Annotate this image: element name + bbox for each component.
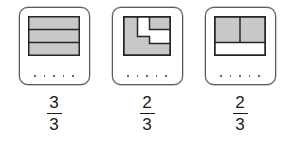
fraction-numerator: 3 (47, 94, 60, 112)
fraction-card-1: 3 3 (13, 0, 95, 142)
dot (34, 75, 36, 77)
fraction-label-1: 3 3 (47, 94, 62, 133)
figure-container-3 (206, 16, 275, 56)
fraction-numerator: 2 (233, 94, 246, 112)
card-row: 3 3 (0, 0, 281, 142)
card-frame-1[interactable] (19, 7, 90, 85)
dot (249, 75, 251, 77)
fraction-numerator: 2 (140, 94, 153, 112)
figure-zigzag-two-thirds-shaded (123, 16, 171, 56)
dot (258, 75, 260, 77)
dot (127, 75, 129, 77)
dots-row-2 (113, 75, 182, 77)
fraction-denominator: 3 (140, 115, 153, 133)
fraction-card-2: 2 3 (106, 0, 188, 142)
fraction-bar (47, 113, 62, 114)
fraction-card-3: 2 3 (199, 0, 281, 142)
dots-row-1 (20, 75, 89, 77)
fraction-bar (140, 113, 155, 114)
dot (63, 75, 65, 77)
fraction-label-3: 2 3 (233, 94, 248, 133)
dot (146, 75, 148, 77)
dot (239, 75, 241, 77)
dot (220, 75, 222, 77)
figure-container-2 (113, 16, 182, 56)
dot (156, 75, 158, 77)
fraction-bar (233, 113, 248, 114)
fraction-denominator: 3 (233, 115, 246, 133)
figure-three-horizontal-bars-all-shaded (28, 16, 80, 56)
fraction-label-2: 2 3 (140, 94, 155, 133)
fraction-denominator: 3 (47, 115, 60, 133)
dot (72, 75, 74, 77)
dots-row-3 (206, 75, 275, 77)
dot (165, 75, 167, 77)
dot (44, 75, 46, 77)
card-frame-3[interactable] (205, 7, 276, 85)
dot (53, 75, 55, 77)
figure-container-1 (20, 16, 89, 56)
fraction-worksheet: 3 3 (0, 0, 281, 142)
figure-top-band-split-in-two-shaded (214, 16, 266, 56)
dot (137, 75, 139, 77)
card-frame-2[interactable] (112, 7, 183, 85)
dot (230, 75, 232, 77)
